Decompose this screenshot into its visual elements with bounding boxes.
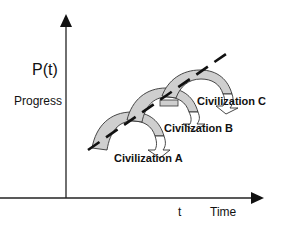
y-axis-symbol: P(t) bbox=[32, 62, 58, 78]
x-axis-symbol: t bbox=[178, 206, 181, 218]
x-axis bbox=[0, 192, 264, 204]
x-axis-arrow-icon bbox=[251, 192, 264, 204]
civilization-b-label: Civilization B bbox=[164, 123, 233, 134]
civilization-c-arrow bbox=[162, 70, 238, 114]
diagram-canvas bbox=[0, 0, 286, 227]
y-axis-label: Progress bbox=[14, 95, 62, 107]
civilization-c-label: Civilization C bbox=[197, 96, 266, 107]
civilization-a-label: Civilization A bbox=[114, 153, 183, 164]
x-axis-label: Time bbox=[210, 206, 236, 218]
y-axis-arrow-icon bbox=[60, 14, 72, 27]
